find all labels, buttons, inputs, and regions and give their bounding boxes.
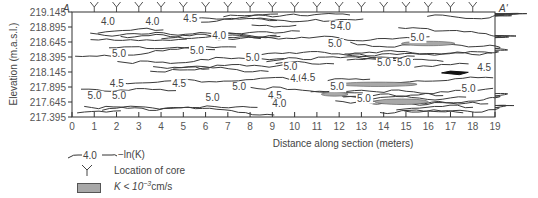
contour-label: 5.0 xyxy=(206,92,220,103)
y-tick-label: 217.645 xyxy=(30,97,67,108)
x-tick-label: 4 xyxy=(158,121,164,132)
core-icon xyxy=(402,2,410,12)
contour-label: 4.5 xyxy=(477,62,491,73)
low-k-zone xyxy=(375,99,428,105)
contour-label: 4.0 xyxy=(101,16,115,27)
x-tick-label: 18 xyxy=(467,121,479,132)
core-icon xyxy=(313,2,321,12)
low-k-zone xyxy=(339,82,417,86)
low-k-zone xyxy=(321,92,348,96)
core-icon xyxy=(80,163,94,177)
x-tick-label: 10 xyxy=(289,121,301,132)
contour-label: 4.5 xyxy=(183,13,197,24)
x-tick-label: 0 xyxy=(69,121,75,132)
contour-label: 5.0 xyxy=(232,81,246,92)
core-icon xyxy=(90,2,98,12)
contour-label: 4.5 xyxy=(110,78,124,89)
contour-label: 4.5 xyxy=(172,78,186,89)
contour-label: 5.0 xyxy=(397,57,411,68)
y-axis: 219.145218.895218.645218.395218.145217.8… xyxy=(30,7,72,123)
contour-label: 5.0 xyxy=(328,38,342,49)
contour-label: 5.0 xyxy=(410,32,424,43)
x-tick-label: 16 xyxy=(423,121,435,132)
x-axis: 012345678910111213141516171819 xyxy=(69,112,501,132)
x-tick-label: 13 xyxy=(356,121,368,132)
contour-label: 5.0 xyxy=(284,61,298,72)
contour-label: 5.0 xyxy=(246,52,260,63)
y-tick-label: 217.895 xyxy=(30,82,67,93)
x-tick-label: 12 xyxy=(334,121,346,132)
y-tick-label: 218.645 xyxy=(30,37,67,48)
contour-label: 5.0 xyxy=(112,90,126,101)
core-icon xyxy=(446,2,454,12)
core-icon xyxy=(335,2,343,12)
contour-label: 4.0 xyxy=(145,16,159,27)
core-icon xyxy=(135,2,143,12)
legend-contour-text: −ln(K) xyxy=(118,149,145,160)
x-tick-label: 7 xyxy=(225,121,231,132)
core-icon xyxy=(157,2,165,12)
x-tick-label: 2 xyxy=(114,121,120,132)
core-icon xyxy=(224,2,232,12)
core-icon xyxy=(424,2,432,12)
y-tick-label: 218.395 xyxy=(30,52,67,63)
x-tick-label: 15 xyxy=(400,121,412,132)
contour-label: 5.0 xyxy=(190,45,204,56)
contour-label: 4.0 xyxy=(272,98,286,109)
x-tick-label: 14 xyxy=(378,121,390,132)
legend-core-text: Location of core xyxy=(114,165,185,176)
x-tick-label: 6 xyxy=(203,121,209,132)
contour-lines xyxy=(75,13,527,115)
core-icon xyxy=(291,2,299,12)
section-label-right: A' xyxy=(498,3,509,14)
contour-label: 4.5 xyxy=(301,72,315,83)
contour-label: 5.0 xyxy=(330,81,344,92)
low-k-swatch xyxy=(77,183,101,193)
section-label-left: A xyxy=(62,3,70,14)
contour-label: 5.0 xyxy=(462,83,476,94)
core-icon xyxy=(113,2,121,12)
x-tick-label: 9 xyxy=(270,121,276,132)
x-tick-label: 8 xyxy=(247,121,253,132)
core-icon xyxy=(246,2,254,12)
y-tick-label: 217.395 xyxy=(30,112,67,123)
y-tick-label: 219.145 xyxy=(30,7,67,18)
contour-label: 5.0 xyxy=(377,57,391,68)
very-low-k-zone xyxy=(442,71,469,75)
core-location-markers xyxy=(90,2,476,12)
contour-label: 5.0 xyxy=(88,90,102,101)
core-icon xyxy=(357,2,365,12)
contour-label: 5.0 xyxy=(357,93,371,104)
contour-label: 5.0 xyxy=(112,48,126,59)
core-icon xyxy=(268,2,276,12)
x-tick-label: 11 xyxy=(312,121,323,132)
svg-text:4.0: 4.0 xyxy=(83,150,97,161)
x-tick-label: 5 xyxy=(181,121,187,132)
x-tick-label: 3 xyxy=(136,121,142,132)
y-axis-title: Elevation (m.a.s.l.) xyxy=(8,23,19,106)
x-tick-label: 19 xyxy=(489,121,501,132)
x-tick-label: 17 xyxy=(445,121,457,132)
x-tick-label: 1 xyxy=(91,121,97,132)
core-icon xyxy=(380,2,388,12)
y-tick-label: 218.145 xyxy=(30,67,67,78)
legend-lowk-text: K < 10−3cm/s xyxy=(114,180,172,192)
contour-label: 4.0 xyxy=(212,30,226,41)
core-icon xyxy=(202,2,210,12)
y-tick-label: 218.895 xyxy=(30,22,67,33)
contour-label: 4.0 xyxy=(337,21,351,32)
core-icon xyxy=(179,2,187,12)
x-axis-title: Distance along section (meters) xyxy=(273,138,414,149)
core-icon xyxy=(469,2,477,12)
